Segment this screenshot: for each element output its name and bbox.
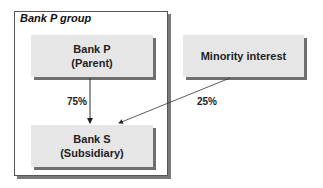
edge-label-25: 25% bbox=[197, 96, 217, 107]
edge-label-75: 75% bbox=[67, 96, 87, 107]
edges-layer bbox=[0, 0, 323, 188]
